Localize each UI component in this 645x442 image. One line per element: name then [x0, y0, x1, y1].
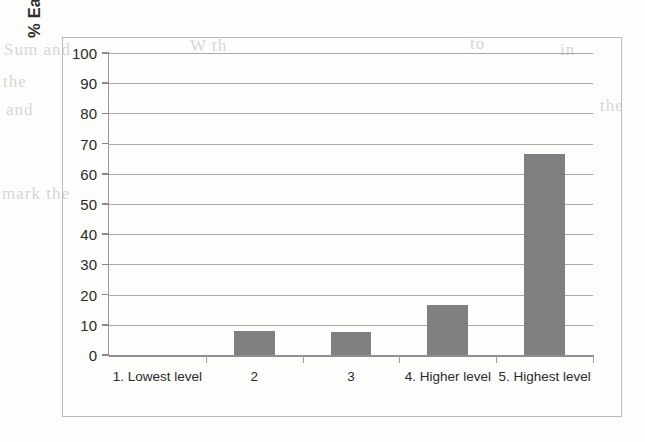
x-axis-tick-mark [303, 355, 304, 363]
y-axis-tick-mark [102, 113, 109, 115]
bar-chart-plot-area: 10090807060504030201001. Lowest level234… [108, 53, 593, 355]
y-axis-tick-label: 50 [80, 196, 97, 213]
y-axis-tick-mark [102, 233, 109, 235]
bar [427, 305, 468, 355]
x-axis-tick-label: 2 [250, 369, 258, 384]
y-axis-tick-label: 30 [80, 256, 97, 273]
y-axis-tick-mark [102, 203, 109, 205]
bleed-text: and [6, 100, 34, 120]
y-axis-tick-label: 90 [80, 75, 97, 92]
y-axis-tick-label: 10 [80, 316, 97, 333]
y-axis-tick-label: 60 [80, 165, 97, 182]
gridline [109, 234, 593, 235]
gridline [109, 174, 593, 175]
y-axis-tick-mark [102, 173, 109, 175]
gridline [109, 144, 593, 145]
gridline [109, 204, 593, 205]
bar [234, 331, 275, 355]
y-axis-tick-label: 80 [80, 105, 97, 122]
x-axis-baseline [109, 355, 593, 357]
gridline [109, 325, 593, 326]
gridline [109, 295, 593, 296]
y-axis-tick-label: 100 [72, 45, 97, 62]
y-axis-title: % Easiness in interaction [21, 0, 47, 86]
y-axis-tick-mark [102, 324, 109, 326]
gridline [109, 113, 593, 114]
x-axis-tick-label: 5. Highest level [498, 369, 590, 384]
bar [331, 332, 372, 355]
gridline [109, 264, 593, 265]
x-axis-tick-mark [399, 355, 400, 363]
y-axis-tick-label: 40 [80, 226, 97, 243]
x-axis-tick-mark [593, 355, 594, 363]
y-axis-tick-mark [102, 294, 109, 296]
x-axis-tick-label: 3 [347, 369, 355, 384]
y-axis-tick-mark [102, 82, 109, 84]
x-axis-tick-mark [206, 355, 207, 363]
x-axis-tick-mark [496, 355, 497, 363]
y-axis-tick-mark [102, 264, 109, 266]
bleed-text: mark the [2, 184, 70, 204]
gridline [109, 53, 593, 54]
y-axis-tick-label: 20 [80, 286, 97, 303]
x-axis-tick-label: 4. Higher level [405, 369, 491, 384]
y-axis-tick-mark [102, 143, 109, 145]
y-axis-tick-label: 70 [80, 135, 97, 152]
gridline [109, 83, 593, 84]
y-axis-tick-label: 0 [89, 347, 97, 364]
bar [524, 154, 565, 355]
y-axis-tick-mark [102, 52, 109, 54]
y-axis-tick-mark [102, 354, 109, 356]
x-axis-tick-label: 1. Lowest level [113, 369, 202, 384]
